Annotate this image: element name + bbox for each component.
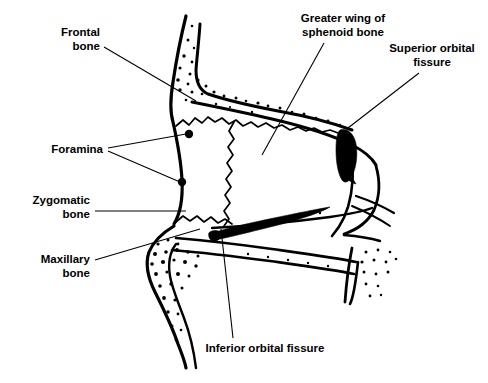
- anatomy-diagram: Frontal bone Greater wing of sphenoid bo…: [0, 0, 488, 383]
- label-zygomatic-bone-line2: bone: [63, 208, 90, 220]
- label-superior-orbital-fissure-line1: Superior orbital: [389, 42, 475, 54]
- label-frontal-bone-line2: bone: [73, 40, 100, 52]
- label-greater-wing-line2: sphenoid bone: [302, 26, 384, 38]
- inferior-orbital-fissure-head: [209, 230, 221, 241]
- label-maxillary-bone-line2: bone: [63, 267, 90, 279]
- label-frontal-bone-line1: Frontal: [61, 26, 100, 38]
- foramen-dot-upper: [185, 130, 193, 138]
- label-foramina: Foramina: [51, 143, 103, 155]
- label-superior-orbital-fissure-line2: fissure: [413, 56, 451, 68]
- orbit-anatomy-figure: Frontal bone Greater wing of sphenoid bo…: [0, 0, 488, 383]
- label-inferior-orbital-fissure: Inferior orbital fissure: [206, 342, 325, 354]
- label-zygomatic-bone-line1: Zygomatic: [32, 194, 90, 206]
- label-greater-wing-line1: Greater wing of: [301, 12, 386, 24]
- label-maxillary-bone-line1: Maxillary: [41, 253, 91, 265]
